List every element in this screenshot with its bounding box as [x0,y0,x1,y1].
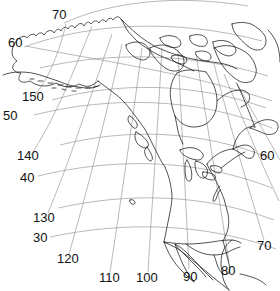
nova-scotia [233,145,254,158]
ellesmere-island [232,23,266,51]
label-lon-110: 110 [99,271,120,284]
west-coast-us [164,167,172,242]
hudson-bay-south [175,116,206,127]
cuba-hispaniola [240,274,266,285]
label-lon-100: 100 [136,271,158,284]
meridian-60 [224,74,279,201]
label-lon-120: 120 [57,252,79,265]
hudson-bay-north [177,70,206,73]
label-lon-150: 150 [22,90,44,103]
meridian-130 [48,34,112,213]
great-lakes-erie-ontario [202,166,222,180]
hudson-bay-west [170,73,177,116]
texas-louisiana-coast [186,244,240,255]
label-lat-50-left: 50 [3,109,17,122]
parallel-60 [26,46,272,101]
label-lon-140: 140 [17,149,39,162]
parallel-45 [60,134,270,158]
alaska-mainland-coast [17,17,194,71]
east-coast-us [207,164,229,241]
label-lon-90: 90 [183,270,197,283]
aleutian-chain [3,72,100,88]
st-lawrence-river [221,152,245,168]
label-lat-60-left: 60 [8,36,22,49]
parallel-70 [64,0,248,23]
great-salt-lake [130,200,135,205]
meridian-120 [69,44,122,254]
label-lon-80: 80 [221,264,235,277]
great-lakes-michigan-huron [185,160,208,181]
labrador-coast [237,84,255,127]
banks-island [126,42,150,60]
greenland-west-coast [268,30,280,62]
hudson-bay-east [206,72,217,124]
label-lat-60-right: 60 [260,149,274,162]
map-figure: 70 60 150 50 140 40 60 130 30 70 120 80 … [0,0,280,291]
parallel-35 [58,198,274,220]
parallel-40 [38,164,272,188]
puget-sound [145,147,153,161]
label-lat-70-right: 70 [257,239,271,252]
parallel-60b [40,57,268,76]
meridian-90 [178,50,189,269]
label-lon-130: 130 [33,211,55,224]
graticule-parallels [24,0,276,249]
meridian-150 [35,24,66,95]
meridian-110 [110,48,142,272]
graticule-meridians [31,24,280,272]
meridian-100 [148,48,162,272]
map-canvas [0,0,280,291]
label-lat-70-top: 70 [52,8,66,21]
parallel-30 [50,227,276,249]
queen-charlotte-islands [128,116,137,129]
parallel-50 [34,102,272,128]
label-lat-40-left: 40 [20,171,34,184]
label-lat-30-left: 30 [33,231,47,244]
